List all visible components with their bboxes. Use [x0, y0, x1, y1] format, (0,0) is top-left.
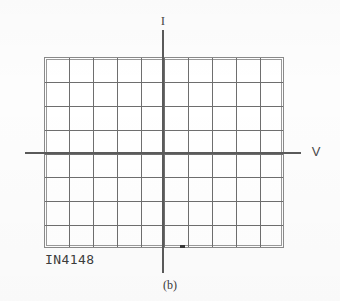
current-axis-line — [162, 30, 164, 273]
grid-line-horizontal — [45, 177, 283, 178]
grid-line-horizontal — [45, 130, 283, 131]
grid-line-horizontal — [45, 82, 283, 83]
grid-line-horizontal — [45, 201, 283, 202]
trace-marker — [180, 245, 185, 248]
device-part-number-label: IN4148 — [45, 252, 94, 267]
grid-line-horizontal — [45, 154, 283, 155]
voltage-axis-label: V — [308, 145, 324, 159]
figure-panel: I V IN4148 (b) — [0, 0, 340, 301]
current-axis-label: I — [155, 14, 171, 28]
figure-caption: (b) — [0, 278, 340, 293]
grid-line-horizontal — [45, 225, 283, 226]
grid-line-horizontal — [45, 106, 283, 107]
